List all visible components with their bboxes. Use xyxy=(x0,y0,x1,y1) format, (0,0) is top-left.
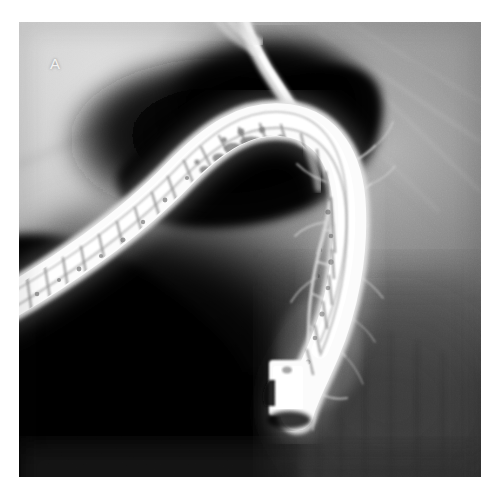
film-grain xyxy=(19,22,481,477)
figure-root: A xyxy=(0,0,504,498)
radiograph-canvas xyxy=(19,22,481,477)
radiograph-image xyxy=(19,22,481,477)
